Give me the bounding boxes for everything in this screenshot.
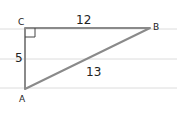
side-label-ab: 13 xyxy=(86,65,101,79)
vertex-label-b: B xyxy=(153,22,159,32)
side-label-cb: 12 xyxy=(76,13,91,27)
vertex-label-c: C xyxy=(18,17,24,27)
side-label-ca: 5 xyxy=(15,51,23,65)
vertex-label-a: A xyxy=(19,94,26,104)
triangle-diagram: C B A 12 5 13 xyxy=(0,0,177,114)
